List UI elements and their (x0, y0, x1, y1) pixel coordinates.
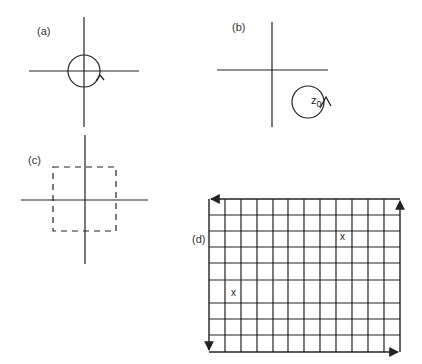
grid-mark-lower: x (231, 288, 236, 298)
panel-c-label: (c) (28, 155, 41, 166)
panel-d-label: (d) (192, 234, 205, 245)
figure-svg (0, 0, 422, 364)
panel-b-diagram (217, 22, 331, 127)
panel-b-arrow-icon (320, 97, 331, 108)
figure-canvas: (a) (b) (c) (d) z0 x x (0, 0, 422, 364)
z-subscript: 0 (317, 99, 322, 109)
panel-b-label: (b) (232, 22, 245, 33)
z0-label: z0 (311, 95, 322, 109)
grid-mark-upper: x (340, 232, 345, 242)
panel-a-arrow-icon (96, 75, 104, 81)
panel-d-grid (209, 199, 400, 352)
panel-a-label: (a) (37, 26, 50, 37)
